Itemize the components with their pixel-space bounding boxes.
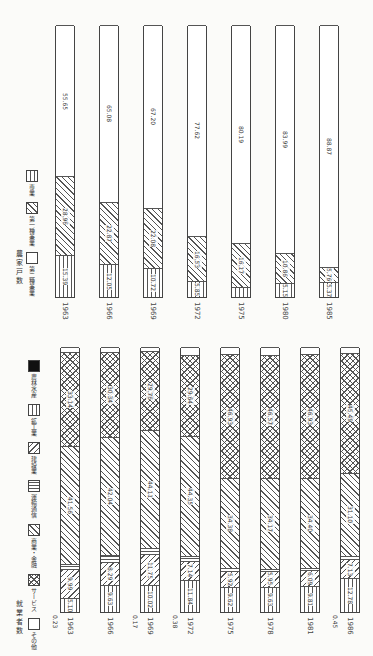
segment-value: 7.13 <box>346 563 355 576</box>
bar-segment <box>341 347 359 353</box>
segment-value: 34.40 <box>306 515 315 532</box>
legend-item: 運輸通信 <box>28 480 40 518</box>
segment-value: 34.38 <box>226 515 235 532</box>
segment-value: 30.34 <box>106 386 115 403</box>
year-label: 1985 <box>325 302 333 320</box>
legend-label: 建設業 <box>30 456 39 474</box>
bar-segment <box>261 347 279 355</box>
segment-value: 16.53 <box>193 251 202 268</box>
bar-segment: 41.56 <box>61 446 79 563</box>
bar-segment: 28.96 <box>56 176 74 255</box>
segment-value: 9.81 <box>306 593 315 606</box>
year-label: 1975 <box>237 302 245 320</box>
bar-segment: 11.84 <box>181 580 199 612</box>
legend-label: 農林水産 <box>30 374 39 398</box>
year-label: 1963 <box>61 302 69 320</box>
bar-segment: 10.02 <box>141 585 159 612</box>
legend-item: サービス <box>28 574 40 612</box>
bar-segment: 5.92 <box>221 571 239 587</box>
stacked-bar: 15.3928.9655.65 <box>55 26 75 298</box>
legend-item: 建設業 <box>28 442 40 474</box>
segment-value: 9.99 <box>66 577 75 590</box>
segment-value: 22.87 <box>105 225 114 242</box>
stacked-bar: 5.375.7688.87 <box>319 26 339 298</box>
segment-value: 45.49 <box>346 405 355 422</box>
bar-segment: 29.76 <box>141 351 159 430</box>
bar-segment: 31.10 <box>341 473 359 555</box>
segment-value: 65.08 <box>105 105 114 122</box>
bar-segment: 46.57 <box>261 355 279 478</box>
bar-segment <box>101 555 119 562</box>
segment-value: 5.92 <box>226 573 235 586</box>
segment-value: 83.99 <box>281 131 290 148</box>
segment-value: 29.76 <box>146 383 155 400</box>
legend-swatch-vlines <box>26 170 38 182</box>
segment-value: 15.39 <box>61 268 70 285</box>
legend-item: 第一種兼業 <box>26 202 38 246</box>
stacked-bar: 12.787.1331.1045.49 <box>340 348 360 613</box>
bar-segment <box>301 568 319 570</box>
bar-segment: 42.04 <box>101 437 119 555</box>
bar-segment <box>61 564 79 570</box>
top-chart-title: 農家戸数 <box>14 250 24 286</box>
bar-segment: 5.85 <box>188 281 206 297</box>
bar-segment: 88.87 <box>320 25 338 267</box>
segment-value: 9.62 <box>226 593 235 606</box>
segment-value: 12.05 <box>105 273 114 290</box>
bar-segment: 5.76 <box>320 267 338 283</box>
bar-segment: 65.08 <box>100 25 118 202</box>
year-label: 1969 <box>149 302 157 320</box>
stacked-bar: 16.1780.19 <box>231 26 251 298</box>
bar-segment: 9.63 <box>101 585 119 612</box>
legend-label: 運輸通信 <box>30 494 39 518</box>
legend-item: 第二種兼業 <box>26 252 38 296</box>
legend-item: 農林水産 <box>28 360 40 398</box>
bar-segment <box>181 347 199 355</box>
bar-segment: 5.37 <box>320 282 338 297</box>
bar-segment: 9.81 <box>301 586 319 612</box>
stacked-bar: 9.816.0934.4046.93 <box>300 348 320 613</box>
bar-segment: 83.99 <box>276 25 294 253</box>
bar-segment: 9.63 <box>261 587 279 612</box>
bar-segment <box>341 556 359 560</box>
stacked-bar: 9.635.9534.1746.57 <box>260 348 280 613</box>
bar-segment <box>301 347 319 354</box>
segment-value: 11.84 <box>186 588 195 605</box>
segment-value: 44.35 <box>186 488 195 505</box>
bar-segment: 45.49 <box>341 353 359 473</box>
segment-value: 9.63 <box>106 592 115 605</box>
low-value-annotation: 0.45 <box>332 615 339 628</box>
bar-segment: 77.62 <box>188 25 206 236</box>
bar-segment <box>101 347 119 352</box>
bar-segment: 44.11 <box>141 430 159 548</box>
year-label: 1963 <box>66 617 74 635</box>
legend-label: サービス <box>30 588 39 612</box>
segment-value: 16.17 <box>237 257 246 274</box>
legend-swatch-diag <box>28 524 40 536</box>
year-label: 1981 <box>306 617 314 635</box>
year-label: 1972 <box>186 617 194 635</box>
bar-segment: 8.29 <box>101 562 119 585</box>
segment-value: 5.15 <box>281 284 290 297</box>
legend-swatch-vlines <box>28 404 40 416</box>
segment-value: 31.10 <box>346 506 355 523</box>
segment-value: 10.86 <box>281 260 290 277</box>
bar-segment <box>181 556 199 561</box>
segment-value: 46.57 <box>266 408 275 425</box>
bar-segment: 16.17 <box>232 243 250 287</box>
bar-segment: 7.14 <box>181 561 199 580</box>
bar-segment: 44.35 <box>181 436 199 556</box>
bar-segment: 12.05 <box>100 264 118 297</box>
bar-segment: 34.40 <box>301 478 319 568</box>
bottom-chart-title: 就業者数 <box>14 600 24 636</box>
year-label: 1966 <box>106 617 114 635</box>
bar-segment: 5.10 <box>61 598 79 612</box>
legend-item: 鉱工業 <box>28 404 40 436</box>
legend-swatch-white <box>28 618 40 630</box>
bar-segment: 7.13 <box>341 559 359 578</box>
bar-segment: 10.86 <box>276 253 294 283</box>
segment-value: 5.76 <box>325 268 334 281</box>
legend-label: 第一種兼業 <box>28 216 37 246</box>
stacked-bar: 5.8516.5377.62 <box>187 26 207 298</box>
legend-swatch-white <box>26 252 38 264</box>
